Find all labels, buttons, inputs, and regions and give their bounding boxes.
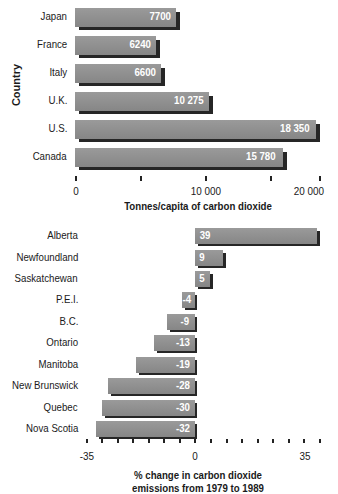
- x-tick: [148, 439, 150, 443]
- bar-value-label: -4: [183, 293, 192, 305]
- x-tick: [132, 439, 134, 443]
- x-axis-title: Tonnes/capita of carbon dioxide: [119, 200, 277, 213]
- x-tick: [257, 439, 259, 443]
- category-label: Alberta: [47, 229, 78, 241]
- x-tick: [179, 439, 181, 443]
- x-tick-label: 10 000: [191, 185, 221, 197]
- x-tick-label: 20 000: [294, 185, 324, 197]
- x-tick: [194, 439, 196, 443]
- bar-value-label: -9: [181, 315, 190, 327]
- x-tick: [288, 439, 290, 443]
- x-axis-title-line-1: % change in carbon dioxide: [119, 469, 277, 482]
- category-label: Saskatchewan: [15, 272, 78, 284]
- bar-value-label: -13: [176, 336, 190, 348]
- x-tick-label: 0: [192, 450, 198, 462]
- x-tick: [319, 439, 321, 443]
- category-label: Italy: [49, 66, 67, 78]
- x-tick: [319, 176, 321, 181]
- x-tick: [241, 439, 243, 443]
- x-tick: [272, 439, 274, 443]
- bar-value-label: 7700: [149, 10, 171, 22]
- bar-value-label: -19: [176, 358, 190, 370]
- bar-value-label: 39: [200, 229, 211, 241]
- x-tick-label: -35: [80, 450, 94, 462]
- category-label: P.E.I.: [56, 293, 78, 305]
- category-label: New Brunswick: [12, 379, 78, 391]
- category-label: U.K.: [48, 94, 67, 106]
- x-tick: [226, 439, 228, 443]
- y-axis-title: Country: [10, 61, 22, 109]
- x-tick: [75, 176, 77, 181]
- x-tick: [117, 439, 119, 443]
- x-axis-title-line-2: emissions from 1979 to 1989: [119, 482, 277, 494]
- category-label: Quebec: [44, 401, 78, 413]
- category-label: France: [37, 38, 67, 50]
- x-tick: [270, 176, 272, 181]
- x-tick: [210, 439, 212, 443]
- bar-value-label: -30: [176, 401, 190, 413]
- bar-value-label: 9: [199, 251, 204, 263]
- category-label: Ontario: [46, 336, 78, 348]
- x-tick: [163, 439, 165, 443]
- x-tick: [303, 439, 305, 443]
- category-label: B.C.: [59, 315, 78, 327]
- x-tick: [140, 176, 142, 181]
- x-axis-title: % change in carbon dioxide emissions fro…: [119, 469, 277, 494]
- bar-value-label: 6240: [129, 38, 151, 50]
- category-label: U.S.: [48, 122, 67, 134]
- x-tick-label: 35: [300, 450, 311, 462]
- bar-value-label: 15 780: [246, 150, 276, 162]
- bar-value-label: 6600: [134, 66, 156, 78]
- bar-alberta[interactable]: [195, 228, 317, 244]
- bar-value-label: -28: [176, 379, 190, 391]
- category-label: Canada: [33, 150, 67, 162]
- x-tick: [205, 176, 207, 181]
- bar-value-label: 5: [199, 272, 204, 284]
- x-tick: [101, 439, 103, 443]
- x-tick-label: 0: [73, 185, 79, 197]
- category-label: Nova Scotia: [26, 422, 78, 434]
- category-label: Newfoundland: [16, 251, 78, 263]
- bar-value-label: 10 275: [174, 94, 204, 106]
- bar-value-label: 18 350: [280, 122, 310, 134]
- category-label: Japan: [41, 10, 67, 22]
- bar-value-label: -32: [176, 422, 190, 434]
- x-tick: [86, 439, 88, 443]
- category-label: Manitoba: [38, 358, 78, 370]
